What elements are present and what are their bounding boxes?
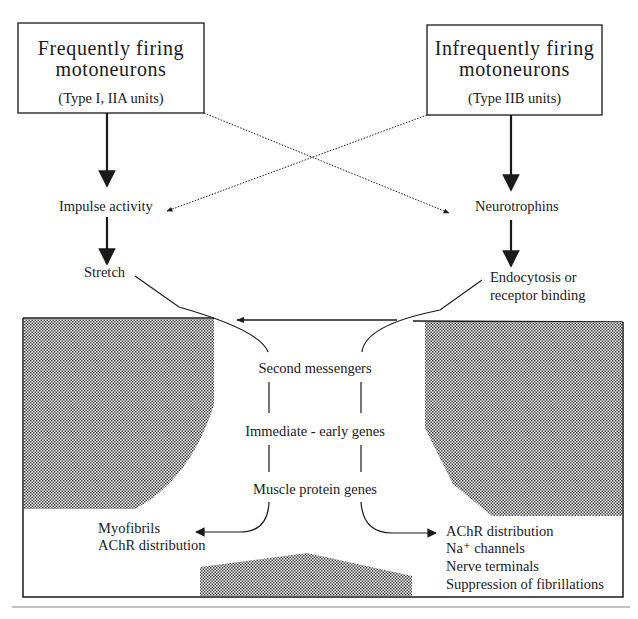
- right-box-subtitle: (Type IIB units): [427, 91, 602, 106]
- to-right-outputs-arrow: [361, 502, 436, 533]
- endocytosis-label-line1: Endocytosis or: [490, 270, 577, 285]
- right-box-title-line2: motoneurons: [427, 59, 602, 79]
- neurotrophins-label: Neurotrophins: [475, 199, 559, 214]
- muscle-protein-genes-label: Muscle protein genes: [215, 482, 415, 497]
- right-output-suppression-fibrillations: Suppression of fibrillations: [446, 577, 604, 592]
- right-output-na-channels: Na⁺ channels: [446, 541, 525, 556]
- left-box-to-neurotrophins-dotted-arrow: [204, 113, 449, 213]
- left-box-subtitle: (Type I, IIA units): [18, 91, 204, 106]
- left-stippled-region: [24, 319, 214, 509]
- endocytosis-label-line2: receptor binding: [490, 288, 585, 303]
- right-box-to-impulse-dotted-arrow: [167, 115, 427, 211]
- right-output-nerve-terminals: Nerve terminals: [446, 559, 539, 574]
- to-left-outputs-arrow: [196, 502, 269, 532]
- second-messengers-label: Second messengers: [215, 361, 415, 376]
- muscle-top-right-edge: [413, 321, 623, 322]
- impulse-activity-label: Impulse activity: [59, 199, 153, 214]
- left-box-title-line2: motoneurons: [18, 59, 204, 79]
- stretch-label: Stretch: [84, 265, 125, 280]
- left-box-title-line1: Frequently firing: [18, 38, 204, 58]
- right-box-title-line1: Infrequently firing: [427, 38, 602, 58]
- right-output-achr-distribution: AChR distribution: [446, 524, 554, 539]
- immediate-early-genes-label: Immediate - early genes: [215, 424, 415, 439]
- right-stippled-region: [425, 322, 622, 516]
- bottom-stippled-region: [200, 553, 412, 596]
- left-output-myofibrils: Myofibrils: [98, 521, 160, 536]
- left-output-achr-distribution: AChR distribution: [98, 538, 206, 553]
